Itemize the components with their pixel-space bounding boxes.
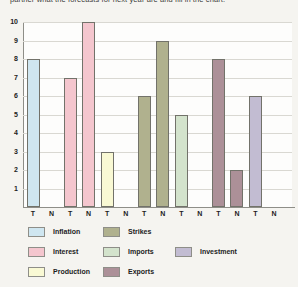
legend-swatch-inflation — [28, 227, 45, 237]
legend-label-production: Production — [53, 267, 90, 277]
x-tick-label-investment-t: T — [249, 210, 261, 218]
legend-swatch-strikes — [103, 227, 120, 237]
x-tick-label-inflation-t: T — [27, 210, 39, 218]
legend-swatch-interest — [28, 247, 45, 257]
x-tick-label-strikes-t: T — [138, 210, 150, 218]
legend-label-inflation: Inflation — [53, 227, 80, 237]
x-axis-line — [23, 207, 295, 208]
bar-strikes-t — [138, 96, 151, 207]
legend: InflationInterestProductionStrikesImport… — [0, 220, 298, 287]
bar-inflation-t — [27, 59, 40, 207]
y-tick-label-10: 10 — [2, 18, 18, 26]
legend-swatch-investment — [175, 247, 192, 257]
legend-swatch-production — [28, 267, 45, 277]
x-tick-label-inflation-n: N — [46, 210, 58, 218]
legend-swatch-imports — [103, 247, 120, 257]
y-tick-label-7: 7 — [2, 74, 18, 82]
y-tick-label-5: 5 — [2, 111, 18, 119]
y-tick-label-8: 8 — [2, 55, 18, 63]
bar-investment-t — [249, 96, 262, 207]
bar-exports-t — [212, 59, 225, 207]
bar-imports-t — [175, 115, 188, 208]
legend-label-strikes: Strikes — [128, 227, 151, 237]
y-tick-label-6: 6 — [2, 92, 18, 100]
bar-chart: 12345678910 TNTNTNTNTNTNTN — [0, 0, 298, 220]
y-tick-label-9: 9 — [2, 37, 18, 45]
legend-swatch-exports — [103, 267, 120, 277]
legend-label-interest: Interest — [53, 247, 78, 257]
legend-label-imports: Imports — [128, 247, 154, 257]
x-tick-label-investment-n: N — [268, 210, 280, 218]
bar-exports-n — [230, 170, 243, 207]
gridline-10 — [23, 22, 292, 23]
legend-label-exports: Exports — [128, 267, 154, 277]
bar-interest-n — [82, 22, 95, 207]
x-tick-label-production-n: N — [120, 210, 132, 218]
x-tick-label-production-t: T — [101, 210, 113, 218]
x-tick-label-exports-n: N — [231, 210, 243, 218]
bar-interest-t — [64, 78, 77, 208]
bar-strikes-n — [156, 41, 169, 208]
legend-label-investment: Investment — [200, 247, 237, 257]
y-tick-label-3: 3 — [2, 148, 18, 156]
x-tick-label-interest-t: T — [64, 210, 76, 218]
y-tick-label-2: 2 — [2, 166, 18, 174]
y-tick-label-1: 1 — [2, 185, 18, 193]
worksheet-page: partner what the forecasts for next year… — [0, 0, 298, 287]
x-tick-label-strikes-n: N — [157, 210, 169, 218]
x-tick-label-imports-n: N — [194, 210, 206, 218]
y-tick-label-4: 4 — [2, 129, 18, 137]
x-tick-label-exports-t: T — [212, 210, 224, 218]
bar-production-t — [101, 152, 114, 208]
x-tick-label-imports-t: T — [175, 210, 187, 218]
x-tick-label-interest-n: N — [83, 210, 95, 218]
